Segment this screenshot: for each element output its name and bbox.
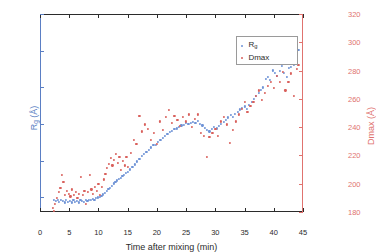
- data-point: [211, 132, 213, 134]
- x-tick-mark-top: [186, 14, 187, 18]
- data-point: [273, 86, 275, 88]
- data-point: [104, 192, 106, 194]
- data-point: [284, 89, 286, 91]
- data-point: [159, 139, 161, 141]
- data-point: [78, 193, 80, 195]
- data-point: [144, 123, 146, 125]
- data-point: [148, 149, 150, 151]
- data-point: [214, 127, 216, 129]
- legend-item-rg[interactable]: Rg: [241, 40, 257, 52]
- x-tick-label: 40: [270, 228, 278, 237]
- data-point: [173, 115, 175, 117]
- y2-tick-label: 180: [348, 208, 361, 217]
- data-point: [94, 185, 96, 187]
- data-point: [129, 152, 131, 154]
- x-tick-mark: [40, 208, 41, 212]
- y2-tick-label: 220: [348, 151, 361, 160]
- data-point: [220, 123, 222, 125]
- data-point: [290, 72, 292, 74]
- data-point: [80, 176, 82, 178]
- data-point: [255, 95, 257, 97]
- data-point: [150, 146, 152, 148]
- data-point: [162, 137, 164, 139]
- data-point: [87, 191, 89, 193]
- x-tick-label: 45: [299, 228, 307, 237]
- data-point: [104, 173, 106, 175]
- data-point: [143, 153, 145, 155]
- data-point: [141, 155, 143, 157]
- data-point: [127, 171, 129, 173]
- data-point: [92, 193, 94, 195]
- data-point: [131, 165, 133, 167]
- legend-item-dmax[interactable]: Dmax: [241, 52, 269, 64]
- data-point: [286, 76, 288, 78]
- data-point: [63, 201, 65, 203]
- data-point: [262, 86, 264, 88]
- x-tick-mark: [245, 208, 246, 212]
- y-tick-mark: [40, 14, 44, 15]
- x-tick-label: 30: [211, 228, 219, 237]
- legend-marker-dmax: [241, 57, 243, 59]
- data-point: [270, 81, 272, 83]
- y2-tick-mark: [299, 99, 303, 100]
- data-point: [129, 168, 131, 170]
- data-point: [287, 81, 289, 83]
- data-point: [211, 128, 213, 130]
- x-tick-mark-top: [128, 14, 129, 18]
- data-point: [260, 89, 262, 91]
- data-point: [238, 113, 240, 115]
- data-point: [281, 65, 283, 67]
- data-point: [64, 194, 66, 196]
- data-point: [122, 160, 124, 162]
- y-tick-mark: [40, 161, 44, 162]
- data-point: [279, 70, 281, 72]
- data-point: [153, 132, 155, 134]
- data-point: [249, 105, 251, 107]
- y2-tick-mark: [299, 212, 303, 213]
- data-point: [62, 181, 64, 183]
- data-point: [257, 92, 259, 94]
- y2-tick-mark: [299, 71, 303, 72]
- data-point: [162, 129, 164, 131]
- x-tick-mark-top: [245, 14, 246, 18]
- chart-legend[interactable]: Rg Dmax: [236, 36, 298, 65]
- y-tick-mark: [40, 124, 44, 125]
- data-point: [165, 116, 167, 118]
- data-point: [115, 153, 117, 155]
- data-point: [117, 161, 119, 163]
- data-point: [236, 110, 238, 112]
- data-point: [296, 68, 298, 70]
- data-point: [279, 81, 281, 83]
- data-point: [106, 167, 108, 169]
- data-point: [109, 187, 111, 189]
- x-tick-mark-top: [157, 14, 158, 18]
- data-point: [75, 191, 77, 193]
- x-tick-label: 0: [38, 228, 42, 237]
- axis-right-dmax: [302, 14, 303, 212]
- x-tick-label: 25: [182, 228, 190, 237]
- data-point: [218, 125, 220, 127]
- legend-label-dmax: Dmax: [248, 54, 269, 62]
- data-point: [226, 123, 228, 125]
- data-point: [159, 120, 161, 122]
- x-tick-mark-top: [69, 14, 70, 18]
- data-point: [77, 201, 79, 203]
- data-point: [229, 142, 231, 144]
- data-point: [227, 116, 229, 118]
- data-point: [246, 110, 248, 112]
- y2-tick-label: 200: [348, 179, 361, 188]
- data-point: [141, 130, 143, 132]
- data-point: [61, 174, 63, 176]
- axis-left-rg: [40, 14, 41, 212]
- y-tick-mark: [40, 197, 44, 198]
- data-point: [191, 126, 193, 128]
- data-point: [276, 75, 278, 77]
- plot-area: 051015202530354045 455055606570 18020022…: [40, 14, 303, 212]
- data-point: [217, 135, 219, 137]
- data-point: [194, 118, 196, 120]
- x-tick-label: 35: [240, 228, 248, 237]
- x-tick-mark: [98, 208, 99, 212]
- data-point: [138, 158, 140, 160]
- data-point: [70, 201, 72, 203]
- y2-tick-label: 280: [348, 66, 361, 75]
